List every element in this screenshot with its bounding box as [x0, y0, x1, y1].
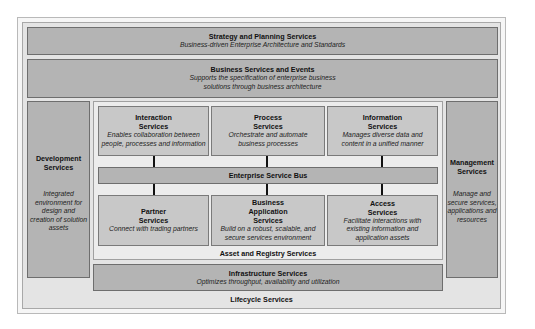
interaction-desc: people, processes and information [102, 140, 206, 149]
development-desc: environment for [35, 199, 82, 208]
information-desc: Manages diverse data and [342, 131, 422, 140]
management-services-box: Management Services Manage and secure se… [446, 101, 498, 278]
connector-line [381, 156, 383, 167]
enterprise-service-bus: Enterprise Service Bus [98, 167, 438, 184]
asset-registry-title: Asset and Registry Services [220, 249, 317, 258]
infrastructure-title: Infrastructure Services [229, 269, 307, 278]
management-desc: Manage and [453, 190, 491, 199]
infrastructure-services-box: Infrastructure Services Optimizes throug… [93, 264, 443, 291]
connector-line [381, 184, 383, 195]
information-title-1: Information [363, 113, 403, 122]
information-services-box: Information Services Manages diverse dat… [327, 106, 438, 156]
infrastructure-desc: Optimizes throughput, availability and u… [196, 278, 339, 287]
development-desc: creation of solution [30, 216, 87, 225]
partner-desc: Connect with trading partners [109, 225, 198, 234]
process-desc: Orchestrate and automate [229, 131, 308, 140]
access-title: Access [370, 199, 395, 208]
strategy-desc: Business-driven Enterprise Architecture … [180, 41, 345, 50]
connector-line [266, 184, 268, 195]
development-services-box: Development Services Integrated environm… [27, 101, 90, 278]
partner-services-box: Partner Services Connect with trading pa… [98, 195, 209, 246]
information-title-2: Services [368, 122, 398, 131]
development-title-1: Development [36, 154, 81, 163]
business-services-desc-2: solutions through business architecture [204, 83, 322, 92]
business-app-desc: secure services environment [225, 234, 312, 243]
business-services-desc-1: Supports the specification of enterprise… [189, 74, 335, 83]
process-title-2: Services [253, 122, 283, 131]
access-services-box: Access Services Facilitate interactions … [327, 195, 438, 246]
interaction-title-2: Services [139, 122, 169, 131]
management-desc: secure services, [447, 199, 496, 208]
development-desc: assets [49, 224, 69, 233]
asset-registry-label-wrap: Asset and Registry Services [93, 247, 443, 259]
development-title-2: Services [44, 163, 74, 172]
strategy-planning-services-box: Strategy and Planning Services Business-… [27, 27, 498, 55]
process-services-box: Process Services Orchestrate and automat… [211, 106, 325, 156]
strategy-title: Strategy and Planning Services [209, 32, 316, 41]
business-services-events-box: Business Services and Events Supports th… [27, 59, 498, 98]
partner-title: Partner [141, 207, 166, 216]
interaction-desc: Enables collaboration between [107, 131, 200, 140]
business-application-services-box: Business Application Services Build on a… [211, 195, 325, 246]
information-desc: content in a unified manner [342, 140, 424, 149]
connector-line [266, 156, 268, 167]
business-app-title: Services [253, 216, 283, 225]
business-services-title: Business Services and Events [211, 65, 315, 74]
access-title: Services [368, 208, 398, 217]
lifecycle-title: Lifecycle Services [230, 295, 292, 304]
management-desc: resources [457, 216, 487, 225]
business-app-title: Application [248, 207, 287, 216]
business-app-desc: Build on a robust, scalable, and [221, 225, 316, 234]
connector-line [153, 156, 155, 167]
process-title-1: Process [254, 113, 282, 122]
process-desc: business processes [238, 140, 298, 149]
business-app-title: Business [252, 198, 284, 207]
partner-title: Services [139, 216, 169, 225]
connector-line [153, 184, 155, 195]
access-desc: application assets [355, 234, 409, 243]
management-desc: applications and [447, 207, 496, 216]
lifecycle-label-wrap: Lifecycle Services [22, 293, 501, 306]
access-desc: Facilitate interactions with [344, 217, 422, 226]
interaction-title-1: Interaction [135, 113, 172, 122]
esb-title: Enterprise Service Bus [229, 171, 308, 180]
management-title-1: Management [450, 158, 494, 167]
management-title-2: Services [457, 167, 487, 176]
development-desc: Integrated [43, 190, 74, 199]
access-desc: existing information and [347, 225, 419, 234]
interaction-services-box: Interaction Services Enables collaborati… [98, 106, 209, 156]
development-desc: design and [42, 207, 75, 216]
